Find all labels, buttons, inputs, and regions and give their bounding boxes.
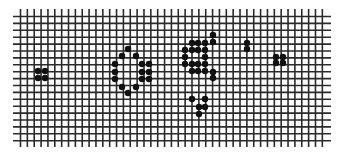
live-cell-dot[interactable] [202,54,208,60]
pattern-blinker-right [244,40,250,52]
live-cell-dot[interactable] [202,104,208,110]
live-cell-dot[interactable] [244,40,250,46]
live-cell-dot[interactable] [189,47,195,53]
live-cell-dot[interactable] [182,61,188,67]
live-cell-dot[interactable] [146,76,152,82]
live-cell-dot[interactable] [195,68,201,74]
live-cell-dot[interactable] [189,40,195,46]
live-cell-dot[interactable] [202,61,208,67]
live-cell-dot[interactable] [182,47,188,53]
live-cell-dot[interactable] [35,68,41,74]
live-cell-dot[interactable] [202,96,208,102]
live-cell-dot[interactable] [133,53,139,59]
live-cell-dot[interactable] [112,69,118,75]
live-cell-dot[interactable] [139,69,145,75]
live-cell-dot[interactable] [273,60,279,66]
live-cell-dot[interactable] [189,68,195,74]
live-cell-dot[interactable] [210,69,216,75]
live-cell-dot[interactable] [119,53,125,59]
live-cell-dot[interactable] [196,111,202,117]
grid-canvas [0,0,343,156]
live-cell-dot[interactable] [195,40,201,46]
live-cell-dot[interactable] [280,54,286,60]
live-cell-dot[interactable] [146,69,152,75]
live-cell-dot[interactable] [196,104,202,110]
live-cell-dot[interactable] [189,61,195,67]
live-cell-dot[interactable] [195,61,201,67]
live-cell-dot[interactable] [280,60,286,66]
live-cell-dot[interactable] [210,39,216,45]
live-cell-dot[interactable] [119,84,125,90]
live-cell-dot[interactable] [139,61,145,67]
live-cell-dot[interactable] [146,61,152,67]
live-cell-dot[interactable] [210,32,216,38]
live-cell-dot[interactable] [42,75,48,81]
live-cell-dot[interactable] [35,75,41,81]
live-cell-dot[interactable] [182,54,188,60]
live-cell-dot[interactable] [112,76,118,82]
live-cell-dot[interactable] [202,68,208,74]
live-cell-dot[interactable] [125,46,131,52]
live-cell-dot[interactable] [202,47,208,53]
live-cell-dot[interactable] [42,68,48,74]
live-cell-dot[interactable] [189,96,195,102]
live-cell-dot[interactable] [139,76,145,82]
live-cell-dot[interactable] [195,47,201,53]
live-cell-dot[interactable] [244,46,250,52]
live-cell-dot[interactable] [125,90,131,96]
live-cell-dot[interactable] [133,84,139,90]
live-cell-dot[interactable] [210,75,216,81]
live-cell-dot[interactable] [202,40,208,46]
live-cell-dot[interactable] [273,54,279,60]
live-cell-dot[interactable] [112,61,118,67]
life-grid-board [0,0,343,156]
